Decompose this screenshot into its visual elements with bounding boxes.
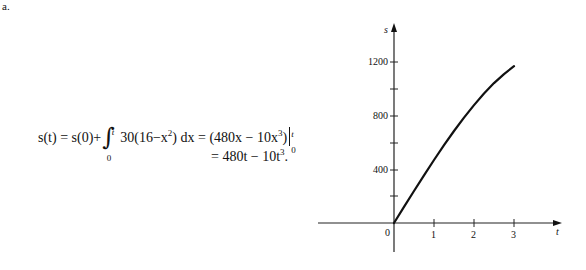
y-axis-label: s: [384, 24, 388, 35]
x-tick-label: 1: [431, 229, 436, 240]
origin-label: 0: [385, 227, 390, 238]
x-axis-label: t: [556, 226, 559, 237]
y-tick-label: 1200: [368, 56, 388, 67]
y-axis-arrow-icon: [391, 23, 397, 32]
y-tick-label: 400: [373, 164, 388, 175]
position-graph: t s 0 1 2 3 400 800 1200: [0, 0, 586, 270]
x-tick-label: 2: [471, 229, 476, 240]
y-tick-label: 800: [373, 110, 388, 121]
x-tick-label: 3: [511, 229, 516, 240]
s-of-t-curve: [394, 66, 514, 223]
